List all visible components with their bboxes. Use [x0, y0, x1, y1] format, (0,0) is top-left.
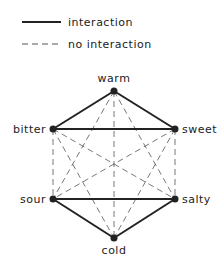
node-sweet	[172, 126, 179, 133]
node-warm	[111, 88, 118, 95]
node-cold	[111, 235, 118, 242]
no-interaction-edges	[53, 91, 175, 238]
legend-interaction-label: interaction	[68, 16, 133, 29]
node-sour	[50, 196, 57, 203]
interaction-edge-sour-cold	[53, 199, 114, 238]
node-bitter	[50, 126, 57, 133]
interaction-edge-warm-bitter	[53, 91, 114, 129]
node-label-sweet: sweet	[182, 123, 217, 136]
interaction-edge-warm-sweet	[114, 91, 175, 129]
node-label-bitter: bitter	[13, 123, 46, 136]
interaction-edge-salty-cold	[114, 199, 175, 238]
legend: interaction no interaction	[22, 16, 152, 51]
interaction-diagram: interaction no interaction warmbitterswe…	[0, 0, 224, 271]
legend-no-interaction-label: no interaction	[68, 38, 152, 51]
node-label-salty: salty	[182, 193, 211, 206]
node-label-cold: cold	[102, 244, 127, 257]
node-salty	[172, 196, 179, 203]
node-label-warm: warm	[98, 72, 131, 85]
node-label-sour: sour	[20, 193, 46, 206]
